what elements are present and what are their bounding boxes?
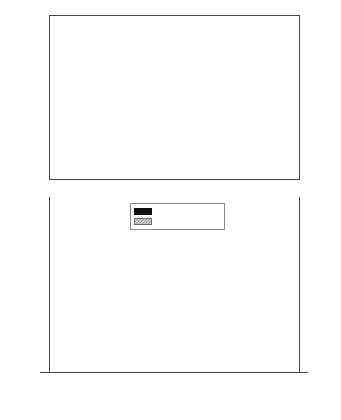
bottom-chart-axis-bottom <box>40 372 308 373</box>
legend-item-root-length <box>134 217 220 226</box>
legend-item-root-number <box>134 207 220 216</box>
top-chart-axis-right <box>299 15 300 179</box>
bottom-chart-axis-right <box>299 197 300 372</box>
figure-root <box>0 0 341 420</box>
top-chart-axis-bottom <box>49 179 300 180</box>
hatched-gray-swatch <box>134 218 152 225</box>
bottom-chart-legend <box>130 203 225 230</box>
solid-black-swatch <box>134 208 152 215</box>
top-chart-plot-area <box>50 15 299 179</box>
